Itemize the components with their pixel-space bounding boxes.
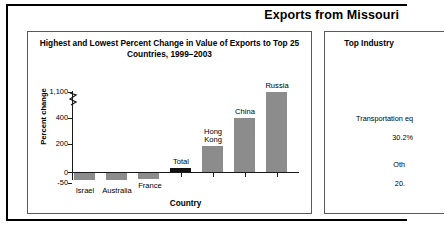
x-category-france: France xyxy=(134,182,166,190)
bar-label-total: Total xyxy=(160,158,202,166)
bar-chart-panel: Highest and Lowest Percent Change in Val… xyxy=(27,31,312,214)
bar-label-russia: Russia xyxy=(258,82,296,90)
axis-break-icon xyxy=(69,92,78,106)
bar-chart-plot: Percent change 1,100 400 200 0 -50 xyxy=(28,32,313,215)
y-tick-label: 200 xyxy=(38,140,68,147)
pie-label-other: Oth 20. xyxy=(325,150,405,188)
bar-israel xyxy=(74,173,95,180)
bar-label-hong-kong: Hong Kong xyxy=(194,128,232,145)
pie-label-other-value: 20. xyxy=(395,179,405,188)
poster-page: Exports from Missouri Highest and Lowest… xyxy=(6,4,407,221)
x-tick-mark xyxy=(181,173,182,177)
x-category-australia: Australia xyxy=(97,187,137,195)
bar-australia xyxy=(106,173,127,180)
bar-china xyxy=(234,118,255,172)
x-tick-mark xyxy=(245,173,246,177)
bar-hong-kong xyxy=(202,146,223,172)
bar-russia xyxy=(266,92,287,172)
top-industry-panel: Top Industry Transportation eq 30.2% Oth… xyxy=(324,31,444,214)
top-industry-pie: Transportation eq 30.2% Oth 20. xyxy=(325,32,445,215)
x-axis-title: Country xyxy=(72,199,299,208)
pie-label-transportation: Transportation eq 30.2% xyxy=(325,104,413,142)
y-tick-label: 0 xyxy=(38,169,68,176)
pie-label-transportation-text: Transportation eq xyxy=(356,114,413,123)
x-tick-mark xyxy=(277,173,278,177)
bar-france xyxy=(138,173,159,179)
y-tick-label: 400 xyxy=(38,114,68,121)
bar-total xyxy=(170,168,191,172)
y-tick-mark xyxy=(68,183,72,184)
x-tick-mark xyxy=(213,173,214,177)
page-title: Exports from Missouri xyxy=(8,8,399,22)
y-tick-label: -50 xyxy=(38,179,68,186)
bar-label-china: China xyxy=(226,108,264,116)
pie-label-transportation-value: 30.2% xyxy=(392,133,413,142)
pie-label-other-text: Oth xyxy=(393,160,405,169)
y-tick-label: 1,100 xyxy=(38,88,68,95)
